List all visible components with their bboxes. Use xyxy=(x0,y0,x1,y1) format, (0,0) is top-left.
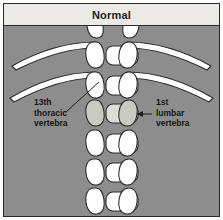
transverse-process-left xyxy=(86,42,104,68)
first-lumbar-vertebra xyxy=(119,100,137,126)
thirteenth-thoracic-vertebra xyxy=(86,100,104,126)
label-13th-thoracic-vertebra: 13th thoracic vertebra xyxy=(34,97,82,129)
rib-upper-right xyxy=(127,42,211,70)
vertebra-row-1 xyxy=(86,42,138,68)
vertebra-row-5 xyxy=(86,159,138,185)
figure-title: Normal xyxy=(4,4,219,26)
transverse-process-left xyxy=(86,188,104,214)
transverse-process-left xyxy=(86,72,104,98)
transverse-process-right xyxy=(119,130,137,156)
label-1st-lumbar-vertebra: 1st lumbar vertebra xyxy=(156,97,212,129)
vertebra-row-2 xyxy=(86,72,138,98)
vertebra-row-4 xyxy=(86,130,138,156)
transverse-process-right xyxy=(123,26,140,38)
vertebra-row-3-highlighted xyxy=(86,100,138,126)
transverse-process-right xyxy=(119,72,137,98)
header-band: Normal xyxy=(4,4,219,26)
vertebra-row-6 xyxy=(86,188,138,214)
figure-frame: 13th thoracic vertebra 1st lumbar verteb… xyxy=(3,3,220,217)
spine-figure: 13th thoracic vertebra 1st lumbar verteb… xyxy=(0,0,223,220)
transverse-process-left xyxy=(87,26,104,38)
rib-upper-left xyxy=(12,42,96,70)
vertebra-row-0 xyxy=(87,26,140,38)
transverse-process-left xyxy=(86,130,104,156)
transverse-process-right xyxy=(119,188,137,214)
transverse-process-left xyxy=(86,159,104,185)
transverse-process-right xyxy=(119,159,137,185)
transverse-process-right xyxy=(119,42,137,68)
